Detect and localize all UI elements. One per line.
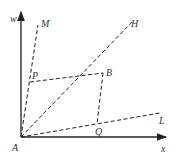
line-AM [21, 25, 38, 137]
point-L: L [158, 115, 165, 126]
point-Q: Q [95, 126, 103, 137]
line-AL [21, 113, 160, 137]
line-BQ [97, 73, 103, 124]
point-H: H [130, 18, 139, 29]
x-label: x [160, 143, 166, 154]
point-M: M [40, 18, 50, 29]
w-label: w [10, 13, 17, 24]
point-B: B [106, 67, 112, 78]
point-A: A [11, 142, 19, 153]
line-PB [30, 73, 103, 82]
point-P: P [31, 70, 38, 81]
vector-diagram: w x A M P B H Q L [0, 0, 175, 160]
